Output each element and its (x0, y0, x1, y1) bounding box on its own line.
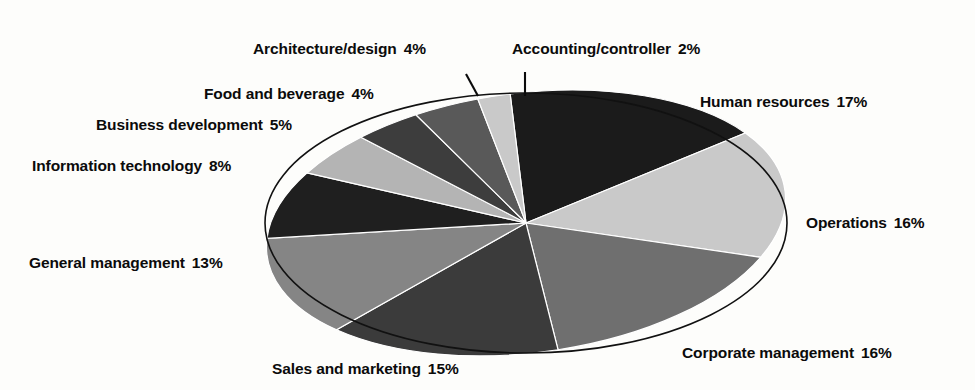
pie-label-value-sales-and-marketing: 15% (428, 360, 459, 377)
pie-label-text-operations: Operations (806, 214, 887, 231)
pie-label-value-human-resources: 17% (836, 93, 867, 110)
pie-label-value-accounting-controller: 2% (678, 40, 700, 57)
pie-label-text-architecture-design: Architecture/design (253, 40, 397, 57)
pie-label-operations: Operations16% (806, 215, 925, 231)
pie-label-architecture-design: Architecture/design4% (253, 41, 426, 57)
pie-label-text-corporate-management: Corporate management (682, 344, 854, 361)
leader-line-architecture-design (466, 74, 478, 96)
pie-label-sales-and-marketing: Sales and marketing15% (272, 361, 459, 377)
pie-label-accounting-controller: Accounting/controller2% (512, 41, 700, 57)
pie-label-text-sales-and-marketing: Sales and marketing (272, 360, 421, 377)
pie-label-text-business-development: Business development (96, 116, 263, 133)
pie-label-value-information-technology: 8% (209, 157, 231, 174)
pie-chart-graphic (0, 0, 975, 390)
pie-label-value-corporate-management: 16% (861, 344, 892, 361)
pie-label-information-technology: Information technology8% (32, 158, 231, 174)
pie-label-business-development: Business development5% (96, 117, 292, 133)
pie-label-corporate-management: Corporate management16% (682, 345, 892, 361)
pie-label-human-resources: Human resources17% (700, 94, 867, 110)
pie-slice-group (251, 62, 801, 384)
pie-label-value-general-management: 13% (192, 254, 223, 271)
pie-label-text-human-resources: Human resources (700, 93, 829, 110)
pie-label-value-operations: 16% (894, 214, 925, 231)
pie-label-text-general-management: General management (29, 254, 185, 271)
pie-chart-figure: Architecture/design4% Accounting/control… (0, 0, 975, 390)
pie-label-text-information-technology: Information technology (32, 157, 202, 174)
pie-label-text-accounting-controller: Accounting/controller (512, 40, 671, 57)
pie-label-value-food-and-beverage: 4% (351, 85, 373, 102)
pie-label-general-management: General management13% (29, 255, 223, 271)
pie-label-value-architecture-design: 4% (404, 40, 426, 57)
pie-label-value-business-development: 5% (270, 116, 292, 133)
pie-label-text-food-and-beverage: Food and beverage (204, 85, 344, 102)
pie-label-food-and-beverage: Food and beverage4% (204, 86, 374, 102)
